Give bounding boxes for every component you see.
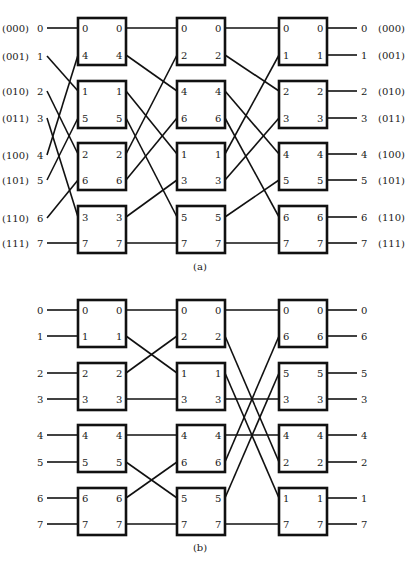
switch-output-port-label: 5 [215,493,221,504]
switch-input-port-label: 1 [82,331,88,342]
switch-box: 1133 [177,363,225,410]
input-label: 7 [37,238,43,249]
switch-input-port-label: 7 [283,519,289,530]
switch-output-port-label: 2 [116,149,122,160]
switch-input-port-label: 0 [82,305,88,316]
switch-output-port-label: 5 [317,175,323,186]
switch-input-port-label: 0 [181,23,187,34]
output-label: 1 [361,493,367,504]
input-label: 7 [37,519,43,530]
switch-input-port-label: 3 [82,394,88,405]
switch-input-port-label: 5 [82,457,88,468]
switch-output-port-label: 0 [215,305,221,316]
switch-box: 4455 [279,143,327,190]
switch-input-port-label: 1 [283,493,289,504]
input-terminals: 0(000)1(001)2(010)3(011)4(100)5(101)6(11… [2,23,78,249]
switch-box: 5577 [177,206,225,253]
switch-input-port-label: 2 [181,331,187,342]
switch-input-port-label: 5 [283,368,289,379]
switch-input-port-label: 3 [283,394,289,405]
switch-output-port-label: 6 [317,331,323,342]
switch-box: 6677 [78,488,126,535]
input-terminals: 01234567 [37,305,78,530]
switch-output-port-label: 4 [317,149,323,160]
output-binary-label: (000) [378,23,405,34]
output-label: 4 [361,149,367,160]
input-binary-label: (110) [2,213,29,224]
switch-input-port-label: 0 [283,23,289,34]
switch-output-port-label: 4 [215,430,221,441]
switch-input-port-label: 5 [181,493,187,504]
output-binary-label: (100) [378,149,405,160]
input-label: 2 [37,368,43,379]
output-label: 6 [361,212,367,223]
output-label: 5 [361,175,367,186]
stage-1: 0044115522663377 [78,18,126,253]
switch-output-port-label: 4 [116,50,122,61]
switch-box: 5577 [177,488,225,535]
input-label: 4 [37,430,43,441]
output-label: 7 [361,238,367,249]
switch-box: 3377 [78,206,126,253]
switch-input-port-label: 3 [181,394,187,405]
switch-output-port-label: 2 [317,457,323,468]
switch-input-port-label: 6 [82,493,88,504]
switch-box: 4466 [177,81,225,128]
output-label: 4 [361,430,367,441]
switch-output-port-label: 5 [317,368,323,379]
stage-1: 0011223344556677 [78,300,126,535]
panel-a-omega-network: 0(000)1(001)2(010)3(011)4(100)5(101)6(11… [2,18,405,272]
switch-input-port-label: 3 [181,175,187,186]
input-label: 5 [37,457,43,468]
switch-output-port-label: 1 [116,331,122,342]
input-wire [47,91,78,154]
switch-output-port-label: 2 [116,368,122,379]
switch-box: 4466 [177,425,225,472]
input-label: 4 [37,150,43,161]
switch-input-port-label: 6 [283,331,289,342]
switch-output-port-label: 2 [215,331,221,342]
switch-input-port-label: 7 [181,238,187,249]
switch-output-port-label: 1 [317,50,323,61]
switch-box: 1177 [279,488,327,535]
switch-input-port-label: 5 [283,175,289,186]
switch-output-port-label: 4 [215,86,221,97]
switch-input-port-label: 2 [181,50,187,61]
input-binary-label: (010) [2,86,29,97]
output-terminals: 06534217 [327,305,367,530]
switch-input-port-label: 0 [82,23,88,34]
switch-output-port-label: 3 [215,175,221,186]
switch-input-port-label: 6 [181,457,187,468]
switch-output-port-label: 1 [317,493,323,504]
input-wire [47,56,78,91]
switch-input-port-label: 7 [283,238,289,249]
switch-input-port-label: 4 [283,149,289,160]
input-label: 2 [37,86,43,97]
input-binary-label: (100) [2,150,29,161]
switch-output-port-label: 6 [215,457,221,468]
input-binary-label: (101) [2,175,29,186]
link-wire [126,118,177,217]
switch-box: 4455 [78,425,126,472]
switch-output-port-label: 6 [116,493,122,504]
switch-input-port-label: 7 [82,238,88,249]
switch-output-port-label: 2 [317,86,323,97]
switch-input-port-label: 2 [283,86,289,97]
switch-input-port-label: 6 [283,212,289,223]
switch-input-port-label: 4 [181,430,187,441]
output-label: 0 [361,23,367,34]
panel-caption: (b) [193,542,207,553]
switch-input-port-label: 1 [82,86,88,97]
input-label: 6 [37,493,43,504]
switch-box: 1133 [177,143,225,190]
switch-output-port-label: 0 [317,305,323,316]
stage-2: 0022113344665577 [177,300,225,535]
link-wire [126,55,177,91]
link-wire [225,118,279,180]
input-label: 3 [37,394,43,405]
switch-box: 6677 [279,206,327,253]
switch-output-port-label: 0 [215,23,221,34]
switch-output-port-label: 7 [116,238,122,249]
switch-input-port-label: 3 [82,212,88,223]
output-label: 3 [361,394,367,405]
